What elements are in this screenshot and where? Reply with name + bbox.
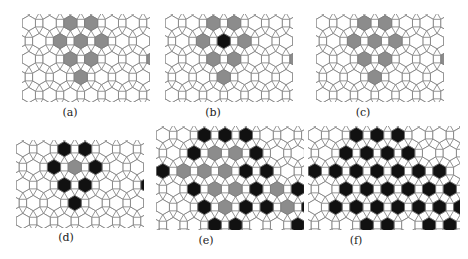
hexagon-tile — [186, 16, 199, 31]
gray-hexagon — [95, 34, 108, 49]
black-hexagon — [371, 199, 384, 214]
square-tile — [67, 37, 75, 45]
square-tile — [446, 167, 454, 175]
square-tile — [371, 19, 379, 27]
square-tile — [220, 91, 228, 99]
hexagon-tile — [399, 51, 412, 66]
hexagon-tile — [412, 128, 425, 143]
black-hexagon — [329, 199, 342, 214]
square-tile — [350, 91, 358, 99]
black-hexagon — [68, 195, 81, 210]
square-tile — [178, 19, 186, 27]
square-tile — [311, 149, 319, 157]
gray-hexagon — [347, 34, 360, 49]
square-tile — [329, 19, 337, 27]
square-tile — [108, 37, 116, 45]
square-tile — [404, 167, 412, 175]
square-tile — [40, 163, 48, 171]
hexagon-tile — [269, 16, 282, 31]
square-tile — [332, 149, 340, 157]
square-tile — [350, 19, 358, 27]
square-tile — [25, 37, 33, 45]
square-tile — [261, 91, 269, 99]
panel-d — [16, 140, 144, 228]
square-tile — [425, 203, 433, 211]
hexagon-tile — [319, 181, 332, 196]
gray-hexagon — [228, 51, 241, 66]
square-tile — [139, 91, 147, 99]
square-tile — [19, 199, 27, 207]
square-tile — [221, 149, 229, 157]
hexagon-tile — [33, 34, 46, 49]
hexagon-tile — [259, 34, 272, 49]
square-tile — [159, 185, 167, 193]
hexagon-tile — [337, 16, 350, 31]
hexagon-tile — [430, 69, 443, 84]
square-tile — [319, 37, 327, 45]
gray-hexagon — [379, 51, 392, 66]
gray-hexagon — [85, 16, 98, 31]
square-tile — [251, 37, 259, 45]
square-tile — [329, 55, 337, 63]
square-tile — [129, 73, 137, 81]
panel-caption-b: (b) — [193, 106, 233, 119]
black-hexagon — [239, 163, 252, 178]
square-tile — [261, 55, 269, 63]
square-tile — [61, 163, 69, 171]
black-hexagon — [239, 128, 252, 143]
black-hexagon — [402, 146, 415, 161]
square-tile — [232, 131, 240, 139]
black-hexagon — [350, 199, 363, 214]
square-tile — [199, 19, 207, 27]
hexagon-tile — [22, 51, 35, 66]
square-tile — [71, 217, 79, 225]
hexagon-tile — [176, 69, 189, 84]
square-tile — [404, 131, 412, 139]
square-tile — [263, 149, 271, 157]
hexagon-tile — [33, 69, 46, 84]
square-tile — [98, 55, 106, 63]
black-hexagon — [198, 128, 211, 143]
square-tile — [87, 73, 95, 81]
hexagon-tile — [16, 142, 29, 157]
square-tile — [123, 199, 131, 207]
square-tile — [50, 217, 58, 225]
hexagon-tile — [279, 69, 292, 84]
square-tile — [332, 221, 340, 229]
hexagon-tile — [177, 128, 190, 143]
black-hexagon — [339, 146, 352, 161]
square-tile — [373, 149, 381, 157]
square-tile — [118, 91, 126, 99]
hexagon-tile — [165, 16, 178, 31]
square-tile — [392, 19, 400, 27]
square-tile — [456, 149, 460, 157]
gray-hexagon — [281, 199, 294, 214]
square-tile — [436, 149, 444, 157]
square-tile — [159, 149, 167, 157]
black-hexagon — [308, 163, 321, 178]
square-tile — [404, 203, 412, 211]
square-tile — [56, 55, 64, 63]
square-tile — [77, 19, 85, 27]
square-tile — [332, 185, 340, 193]
gray-hexagon — [368, 34, 381, 49]
square-tile — [133, 145, 141, 153]
black-hexagon — [260, 199, 273, 214]
black-hexagon — [422, 181, 435, 196]
gray-hexagon — [368, 69, 381, 84]
hexagon-tile — [110, 195, 123, 210]
black-hexagon — [260, 163, 273, 178]
square-tile — [169, 131, 177, 139]
gray-hexagon — [379, 16, 392, 31]
square-tile — [321, 167, 329, 175]
tiling-svg — [308, 126, 460, 230]
gray-hexagon — [208, 146, 221, 161]
panel-caption-d: (d) — [46, 231, 86, 244]
square-tile — [56, 91, 64, 99]
hexagon-tile — [281, 163, 294, 178]
tiling-svg — [316, 14, 444, 102]
square-tile — [282, 55, 290, 63]
gray-hexagon — [228, 16, 241, 31]
gray-hexagon — [74, 34, 87, 49]
gray-hexagon — [207, 51, 220, 66]
